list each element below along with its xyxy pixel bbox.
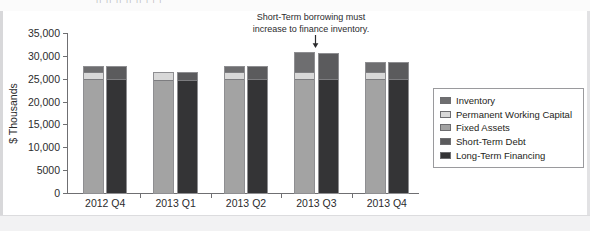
x-axis-tick bbox=[352, 193, 353, 198]
bar-left bbox=[153, 72, 174, 195]
bar-segment bbox=[366, 63, 385, 73]
bar-right bbox=[247, 66, 268, 194]
y-axis-tick-label: 25,000 bbox=[28, 73, 60, 85]
y-axis-tick-label: 15,000 bbox=[28, 118, 60, 130]
bar-segment bbox=[84, 80, 103, 193]
figure-bottom-edge bbox=[0, 216, 590, 231]
bar-segment bbox=[366, 73, 385, 80]
annotation-line-2: increase to finance inventory. bbox=[236, 24, 386, 36]
y-axis-tick bbox=[63, 56, 68, 57]
legend-swatch bbox=[440, 152, 451, 159]
figure-container: || || || || || | | | $ Thousands 0500010… bbox=[0, 0, 590, 231]
bar-segment bbox=[154, 73, 173, 81]
legend-label: Long-Term Financing bbox=[456, 150, 545, 161]
bar-segment bbox=[225, 80, 244, 193]
legend: InventoryPermanent Working CapitalFixed … bbox=[433, 88, 584, 168]
legend-item-inventory[interactable]: Inventory bbox=[440, 94, 578, 108]
bar-segment bbox=[84, 73, 103, 80]
bar-left bbox=[224, 66, 245, 194]
figure-left-edge bbox=[0, 11, 3, 216]
legend-item-short-term-debt[interactable]: Short-Term Debt bbox=[440, 135, 578, 149]
y-axis-tick bbox=[63, 124, 68, 125]
bar-right bbox=[177, 72, 198, 195]
legend-item-fixed-assets[interactable]: Fixed Assets bbox=[440, 121, 578, 135]
x-axis-tick-label: 2013 Q4 bbox=[367, 197, 407, 209]
bar-segment bbox=[319, 54, 338, 80]
y-axis-tick bbox=[63, 170, 68, 171]
legend-item-long-term-financing[interactable]: Long-Term Financing bbox=[440, 148, 578, 162]
x-axis-tick bbox=[140, 193, 141, 198]
bar-segment bbox=[178, 81, 197, 193]
legend-label: Inventory bbox=[456, 95, 495, 106]
plot-area: 0500010,00015,00020,00025,00030,00035,00… bbox=[67, 33, 419, 194]
x-axis-tick-label: 2012 Q4 bbox=[85, 197, 125, 209]
bar-segment bbox=[107, 80, 126, 193]
bar-segment bbox=[107, 67, 126, 81]
bar-segment bbox=[248, 80, 267, 193]
x-axis-tick-label: 2013 Q2 bbox=[226, 197, 266, 209]
y-axis-tick-label: 0 bbox=[54, 187, 60, 199]
x-axis-tick bbox=[211, 193, 212, 198]
bar-segment bbox=[319, 80, 338, 193]
bar-left bbox=[294, 52, 315, 194]
bar-segment bbox=[225, 73, 244, 81]
cropped-top-text-row: || || || || || | | | bbox=[0, 0, 590, 11]
bar-segment bbox=[366, 80, 385, 193]
x-axis-tick-label: 2013 Q1 bbox=[155, 197, 195, 209]
bar-left bbox=[83, 66, 104, 194]
bar-right bbox=[318, 53, 339, 194]
bar-segment bbox=[295, 53, 314, 73]
y-axis-tick-label: 35,000 bbox=[28, 27, 60, 39]
y-axis-tick-label: 5000 bbox=[37, 164, 60, 176]
x-axis-tick-label: 2013 Q3 bbox=[296, 197, 336, 209]
annotation-line-1: Short-Term borrowing must bbox=[236, 12, 386, 24]
legend-item-permanent-working-capital[interactable]: Permanent Working Capital bbox=[440, 108, 578, 122]
bar-right bbox=[106, 66, 127, 194]
y-axis-tick bbox=[63, 147, 68, 148]
y-axis-tick-label: 20,000 bbox=[28, 96, 60, 108]
bar-segment bbox=[154, 81, 173, 193]
annotation-callout: Short-Term borrowing must increase to fi… bbox=[236, 12, 386, 35]
bar-segment bbox=[389, 80, 408, 193]
legend-label: Short-Term Debt bbox=[456, 136, 526, 147]
bar-right bbox=[388, 62, 409, 194]
legend-swatch bbox=[440, 111, 451, 118]
bar-segment bbox=[295, 80, 314, 193]
legend-swatch bbox=[440, 124, 451, 131]
y-axis-tick bbox=[63, 102, 68, 103]
y-axis-tick-label: 10,000 bbox=[28, 141, 60, 153]
bar-left bbox=[365, 62, 386, 194]
legend-label: Fixed Assets bbox=[456, 122, 510, 133]
y-axis-tick-label: 30,000 bbox=[28, 50, 60, 62]
y-axis-tick bbox=[63, 193, 68, 194]
bar-segment bbox=[389, 63, 408, 80]
y-axis-tick bbox=[63, 79, 68, 80]
bar-segment bbox=[178, 73, 197, 81]
bar-segment bbox=[248, 67, 267, 81]
y-axis-tick bbox=[63, 33, 68, 34]
bar-segment bbox=[84, 67, 103, 74]
cropped-text: || || || || || | | | bbox=[96, 0, 163, 3]
x-axis-tick bbox=[281, 193, 282, 198]
bar-segment bbox=[295, 73, 314, 80]
legend-swatch bbox=[440, 138, 451, 145]
down-arrow-icon bbox=[311, 35, 320, 48]
y-axis-title: $ Thousands bbox=[6, 33, 20, 194]
legend-swatch bbox=[440, 97, 451, 104]
legend-label: Permanent Working Capital bbox=[456, 109, 572, 120]
